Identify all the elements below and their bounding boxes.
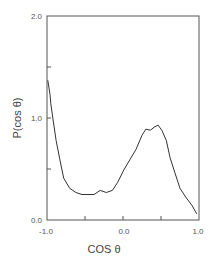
x-axis-ticks [85, 216, 161, 220]
plot-frame [47, 16, 199, 220]
x-tick-label-1: 1.0 [192, 227, 204, 236]
y-tick-label-1: 1.0 [31, 114, 43, 123]
y-tick-label-0: 0.0 [31, 216, 43, 225]
y-axis-ticks [47, 67, 51, 169]
x-tick-label-neg1: -1.0 [39, 227, 53, 236]
y-axis-label: P(cos θ) [11, 98, 23, 139]
chart-canvas: 0.0 1.0 2.0 -1.0 0.0 1.0 COS θ P(cos θ) [0, 0, 211, 269]
x-tick-label-0: 0.0 [118, 227, 130, 236]
y-tick-label-2: 2.0 [31, 12, 43, 21]
data-curve [48, 80, 197, 214]
x-axis-label: COS θ [87, 243, 120, 255]
